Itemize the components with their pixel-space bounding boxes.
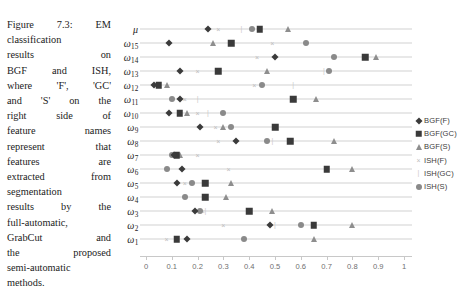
y-axis-tick-label: ω3 xyxy=(127,206,138,217)
grid-row-line xyxy=(140,57,412,58)
x-icon xyxy=(416,158,421,163)
legend-label: ISH(S) xyxy=(424,182,447,191)
caption-line: theproposed xyxy=(7,245,111,260)
legend-label: ISH(F) xyxy=(424,156,447,165)
figure-caption: Figure7.3:EMclassificationresultsonBGFan… xyxy=(7,17,111,286)
x-axis-tick xyxy=(378,256,379,260)
circle-icon xyxy=(416,184,422,190)
y-axis-tick-label: ω9 xyxy=(127,122,138,133)
grid-row-line xyxy=(140,85,412,86)
x-axis-tick xyxy=(249,256,250,260)
caption-line: rightsideof xyxy=(7,108,111,123)
y-axis-tick-label: ω4 xyxy=(127,192,138,203)
plot-area: μω15ω14ω13ω12ω11ω10ω9ω8ω7ω6ω5ω4ω3ω2ω1 xyxy=(112,18,412,256)
y-axis-tick-label: ω6 xyxy=(127,164,138,175)
caption-line: Figure7.3:EM xyxy=(7,17,111,32)
y-axis-tick-label: ω15 xyxy=(124,38,138,49)
grid-row-line xyxy=(140,127,412,128)
x-axis-tick xyxy=(223,256,224,260)
grid-row-line xyxy=(140,239,412,240)
x-axis-tick-label: 0.7 xyxy=(321,262,332,271)
y-axis-tick-label: ω1 xyxy=(127,234,138,245)
x-axis-tick xyxy=(198,256,199,260)
legend-item-bgfs: BGF(S) xyxy=(413,140,461,153)
legend-item-bgfgc: BGF(GC) xyxy=(413,127,461,140)
x-axis-tick-label: 1 xyxy=(402,262,406,271)
x-axis-tick-label: 0.1 xyxy=(167,262,178,271)
caption-line: segmentation xyxy=(7,184,111,199)
x-axis-tick-label: 0.5 xyxy=(270,262,281,271)
grid-row-line xyxy=(140,169,412,170)
caption-line: GrabCutand xyxy=(7,230,111,245)
y-axis-tick-label: ω11 xyxy=(124,94,138,105)
x-axis-tick-label: 0.6 xyxy=(296,262,307,271)
legend-item-bgff: BGF(F) xyxy=(413,114,461,127)
x-axis-tick xyxy=(172,256,173,260)
legend-marker-triangle-icon xyxy=(413,141,424,152)
y-axis-tick-label: ω2 xyxy=(127,220,138,231)
y-axis-tick-label: ω12 xyxy=(124,80,138,91)
grid-row-line xyxy=(140,71,412,72)
x-axis-tick-label: 0.9 xyxy=(373,262,384,271)
scatter-chart: μω15ω14ω13ω12ω11ω10ω9ω8ω7ω6ω5ω4ω3ω2ω1 00… xyxy=(112,18,446,278)
grid-row-line xyxy=(140,29,412,30)
legend-item-ishgc: ISH(GC) xyxy=(413,167,461,180)
caption-line: representthat xyxy=(7,139,111,154)
caption-line: BGFandISH, xyxy=(7,63,111,78)
legend-marker-x-icon xyxy=(413,155,424,166)
caption-line: semi-automatic xyxy=(7,260,111,275)
grid-row-line xyxy=(140,43,412,44)
y-axis-labels: μω15ω14ω13ω12ω11ω10ω9ω8ω7ω6ω5ω4ω3ω2ω1 xyxy=(112,18,140,256)
caption-line: resultson xyxy=(7,47,111,62)
grid-row-line xyxy=(140,197,412,198)
x-axis-tick-label: 0.4 xyxy=(244,262,255,271)
x-axis-tick-label: 0 xyxy=(144,262,148,271)
chart-legend: BGF(F)BGF(GC)BGF(S)ISH(F)ISH(GC)ISH(S) xyxy=(413,114,461,193)
legend-marker-diamond-icon xyxy=(413,115,424,126)
y-axis-tick-label: μ xyxy=(133,24,138,35)
y-axis-tick-label: ω13 xyxy=(124,66,138,77)
y-axis-tick-label: ω14 xyxy=(124,52,138,63)
y-axis-tick-label: ω5 xyxy=(127,178,138,189)
caption-line: full-automatic, xyxy=(7,215,111,230)
legend-item-ishf: ISH(F) xyxy=(413,154,461,167)
triangle-icon xyxy=(416,144,422,150)
x-axis-tick-label: 0.3 xyxy=(218,262,229,271)
x-axis: 00.10.20.30.40.50.60.70.80.91 xyxy=(140,256,412,278)
grid-row-line xyxy=(140,141,412,142)
x-axis-tick xyxy=(352,256,353,260)
x-axis-line xyxy=(140,256,412,257)
legend-item-ishs: ISH(S) xyxy=(413,180,461,193)
legend-label: BGF(F) xyxy=(424,116,450,125)
square-icon xyxy=(415,131,422,138)
caption-line: and'S'onthe xyxy=(7,93,111,108)
tick-icon xyxy=(417,171,421,175)
diamond-icon xyxy=(415,117,422,124)
grid-row-line xyxy=(140,211,412,212)
y-axis-tick-label: ω7 xyxy=(127,150,138,161)
grid-row-line xyxy=(140,99,412,100)
caption-line: classification xyxy=(7,32,111,47)
grid-row-line xyxy=(140,225,412,226)
caption-line: resultsbythe xyxy=(7,199,111,214)
caption-line: featurenames xyxy=(7,123,111,138)
caption-line: where'F','GC' xyxy=(7,78,111,93)
legend-label: ISH(GC) xyxy=(424,169,454,178)
caption-line: extractedfrom xyxy=(7,169,111,184)
legend-label: BGF(GC) xyxy=(424,129,457,138)
caption-line: methods. xyxy=(7,275,111,286)
x-axis-tick xyxy=(301,256,302,260)
x-axis-tick-label: 0.8 xyxy=(347,262,358,271)
y-axis-tick-label: ω8 xyxy=(127,136,138,147)
y-axis-tick-label: ω10 xyxy=(124,108,138,119)
grid-row-line xyxy=(140,183,412,184)
x-axis-tick xyxy=(146,256,147,260)
x-axis-tick-label: 0.2 xyxy=(192,262,203,271)
legend-marker-circle-icon xyxy=(413,181,424,192)
legend-marker-square-icon xyxy=(413,128,424,139)
caption-line: featuresare xyxy=(7,154,111,169)
grid-row-line xyxy=(140,155,412,156)
x-axis-tick xyxy=(275,256,276,260)
plot-grid xyxy=(140,18,412,256)
